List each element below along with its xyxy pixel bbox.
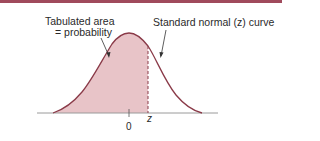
shaded-area-label-line2: = probability — [55, 27, 112, 38]
curve-pointer-arrowhead — [160, 52, 164, 58]
z-tick-label: z — [147, 113, 152, 124]
curve-label: Standard normal (z) curve — [153, 17, 274, 28]
curve-pointer-line — [161, 30, 166, 56]
zero-tick-label: 0 — [126, 121, 132, 132]
shaded-area — [53, 33, 148, 113]
